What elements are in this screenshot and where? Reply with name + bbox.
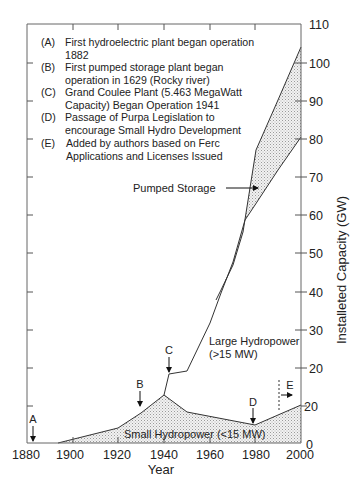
y-tick-label: 20 bbox=[304, 400, 318, 414]
y-tick-label: 80 bbox=[309, 133, 323, 147]
x-tick-label: 1900 bbox=[56, 448, 84, 462]
y-tick-label: 50 bbox=[309, 247, 323, 261]
marker-a-label: A bbox=[29, 413, 37, 425]
y-tick-label: 100 bbox=[309, 57, 330, 71]
y-tick-label: 90 bbox=[309, 95, 323, 109]
left-y-ticks bbox=[27, 63, 33, 406]
note-text: 1882 bbox=[65, 49, 89, 61]
right-y-tick-labels: 110 100 90 80 70 60 50 40 30 20 20 0 bbox=[304, 18, 330, 452]
note-text: operation in 1629 (Rocky river) bbox=[65, 74, 210, 86]
x-tick-label: 1880 bbox=[12, 448, 40, 462]
note-text: Capacity) Began Operation 1941 bbox=[65, 99, 219, 111]
note-key-c: (C) bbox=[41, 86, 56, 98]
note-text: Passage of Purpa Legislation to bbox=[65, 111, 215, 123]
large-hydropower-label: Large Hydropower bbox=[209, 335, 300, 347]
note-key-b: (B) bbox=[41, 61, 55, 73]
x-tick-label: 1940 bbox=[150, 448, 178, 462]
marker-b: B bbox=[136, 378, 143, 406]
note-text: Added by authors based on Ferc bbox=[66, 137, 220, 149]
marker-e: E bbox=[279, 379, 294, 410]
note-key-d: (D) bbox=[41, 111, 56, 123]
note-text: First hydroelectric plant began operatio… bbox=[65, 36, 254, 48]
marker-c-label: C bbox=[165, 344, 173, 356]
y-tick-label: 70 bbox=[309, 171, 323, 185]
x-tick-label: 1980 bbox=[242, 448, 270, 462]
note-text: encourage Small Hydro Development bbox=[65, 124, 241, 136]
y-tick-label: 30 bbox=[309, 324, 323, 338]
hydropower-chart: 110 100 90 80 70 60 50 40 30 20 20 0 Ins… bbox=[0, 0, 362, 489]
marker-d-label: D bbox=[249, 396, 257, 408]
marker-e-label: E bbox=[286, 379, 293, 391]
note-text: Applications and Licenses Issued bbox=[66, 150, 223, 162]
y-tick-label: 110 bbox=[309, 18, 329, 32]
pumped-storage-area bbox=[216, 47, 301, 300]
y-tick-label: 60 bbox=[309, 209, 323, 223]
marker-d: D bbox=[249, 396, 257, 423]
y-axis-title: Installeted Capacity (GW) bbox=[334, 196, 349, 344]
x-tick-label: 1920 bbox=[103, 448, 131, 462]
note-text: Grand Coulee Plant (5.463 MegaWatt bbox=[65, 86, 242, 98]
large-hydropower-sublabel: (>15 MW) bbox=[209, 348, 258, 360]
marker-a: A bbox=[29, 413, 37, 441]
y-tick-label: 40 bbox=[309, 286, 323, 300]
pumped-storage-label: Pumped Storage bbox=[133, 182, 216, 194]
y-tick-label: 20 bbox=[309, 362, 323, 376]
x-tick-label: 1960 bbox=[196, 448, 224, 462]
marker-c: C bbox=[165, 344, 173, 372]
notes-legend: (A) First hydroelectric plant began oper… bbox=[41, 36, 254, 162]
marker-b-label: B bbox=[136, 378, 143, 390]
note-key-a: (A) bbox=[41, 36, 55, 48]
note-text: First pumped storage plant began bbox=[65, 61, 224, 73]
x-axis-title: Year bbox=[148, 462, 175, 477]
x-tick-labels: 1880 1900 1920 1940 1960 1980 2000 bbox=[12, 448, 314, 462]
note-key-e: (E) bbox=[41, 137, 55, 149]
small-hydropower-label: Small Hydropower (<15 MW) bbox=[124, 428, 266, 440]
x-tick-label: 2000 bbox=[286, 448, 314, 462]
